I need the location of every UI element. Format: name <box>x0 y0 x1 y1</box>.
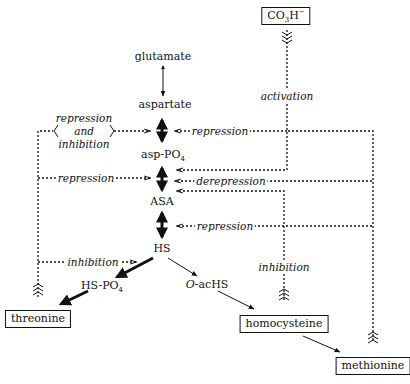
feather-tails <box>33 32 378 343</box>
box-co3h: CO3H− <box>261 7 310 25</box>
label-homocysteine-inhibition: inhibition <box>257 261 312 273</box>
metabolite-hs-po4: HS-PO4 <box>81 280 123 292</box>
label-derepression: derepression <box>194 175 267 187</box>
label-repression-and-inhibition-line3: inhibition <box>59 138 110 150</box>
label-repression-and-inhibition-line2: and <box>74 125 94 137</box>
metabolite-asp-po4: asp-PO4 <box>141 149 185 161</box>
metabolite-glutamate: glutamate <box>135 51 192 63</box>
box-methionine: methionine <box>336 357 410 375</box>
metabolite-aspartate: aspartate <box>139 99 192 111</box>
label-threonine-repression: repression <box>56 172 116 184</box>
metabolite-hs: HS <box>153 243 170 255</box>
thin-arrows <box>168 258 340 352</box>
metabolite-o-achs: O-acHS <box>186 279 229 291</box>
label-methionine-repression: repression <box>190 125 250 137</box>
label-repression-and-inhibition-line1: repression <box>56 112 112 124</box>
box-threonine: threonine <box>5 310 71 328</box>
label-methionine-repression-asa: repression <box>195 220 255 232</box>
box-homocysteine: homocysteine <box>240 315 329 333</box>
metabolite-asa: ASA <box>150 196 173 208</box>
label-activation: activation <box>259 90 316 102</box>
label-threonine-inhibition: inhibition <box>66 256 121 268</box>
